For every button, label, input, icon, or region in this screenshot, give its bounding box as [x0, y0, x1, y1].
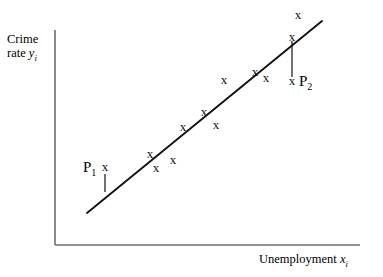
data-point-marker: x — [180, 119, 187, 134]
axes-group — [55, 30, 360, 245]
data-point-marker: x — [289, 73, 296, 88]
x-axis-subscript: i — [345, 259, 347, 269]
data-point-marker: x — [295, 7, 302, 22]
data-point-marker: x — [221, 72, 228, 87]
data-point-marker: x — [170, 152, 177, 167]
data-point-group: xxxxxxxxxxxxx — [102, 7, 302, 175]
y-axis-label-line1: Crime — [7, 32, 38, 46]
data-point-marker: x — [213, 117, 220, 132]
data-point-marker: x — [147, 146, 154, 161]
data-point-marker: x — [102, 159, 109, 174]
y-axis-subscript: i — [34, 53, 36, 63]
p2-subscript: 2 — [307, 81, 312, 92]
plot-canvas: xxxxxxxxxxxxx — [0, 0, 383, 277]
data-point-marker: x — [201, 104, 208, 119]
residual-leader-group — [105, 41, 292, 192]
x-axis-label: Unemployment xi — [259, 252, 348, 269]
x-axis-label-text: Unemployment — [259, 252, 340, 266]
p1-subscript: 1 — [91, 167, 96, 178]
point-label-p2: P2 — [299, 73, 312, 92]
data-point-marker: x — [153, 160, 160, 175]
y-axis-label-line2: rate — [7, 46, 29, 60]
y-axis-label: Crime rate yi — [7, 32, 38, 63]
data-point-marker: x — [263, 70, 270, 85]
scatter-plot-figure: xxxxxxxxxxxxx Crime rate yi Unemployment… — [0, 0, 383, 277]
data-point-marker: x — [289, 29, 296, 44]
data-point-marker: x — [252, 64, 259, 79]
point-label-p1: P1 — [83, 159, 96, 178]
